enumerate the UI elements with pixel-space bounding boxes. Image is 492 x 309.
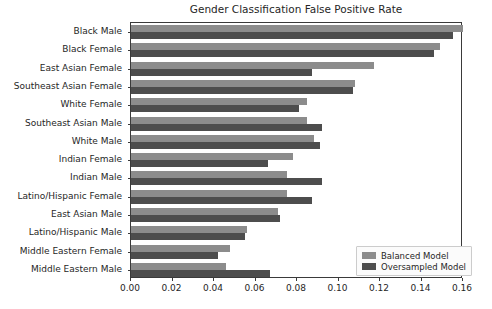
y-axis-tick-label: Middle Eastern Female <box>0 246 122 256</box>
chart-legend: Balanced ModelOversampled Model <box>356 246 472 276</box>
x-axis-tick-label: 0.12 <box>369 283 389 293</box>
legend-item: Balanced Model <box>362 250 466 261</box>
x-tick <box>338 278 339 281</box>
chart-figure: Gender Classification False Positive Rat… <box>0 0 492 309</box>
y-axis-tick-label: East Asian Female <box>0 63 122 73</box>
x-axis: 0.000.020.040.060.080.100.120.140.16 <box>130 278 462 306</box>
y-axis-tick-label: East Asian Male <box>0 209 122 219</box>
x-axis-tick-label: 0.06 <box>244 283 264 293</box>
legend-label: Oversampled Model <box>381 262 466 272</box>
chart-title: Gender Classification False Positive Rat… <box>130 3 462 15</box>
legend-swatch <box>362 252 376 259</box>
y-axis-tick-label: Indian Female <box>0 154 122 164</box>
legend-item: Oversampled Model <box>362 261 466 272</box>
y-axis-tick-label: Southeast Asian Female <box>0 81 122 91</box>
y-axis-tick-label: White Female <box>0 99 122 109</box>
y-axis-tick-label: Latino/Hispanic Female <box>0 191 122 201</box>
y-axis-tick-label: Black Male <box>0 26 122 36</box>
x-axis-tick-label: 0.02 <box>161 283 181 293</box>
x-axis-tick-label: 0.14 <box>410 283 430 293</box>
x-tick <box>130 278 131 281</box>
legend-swatch <box>362 263 376 270</box>
y-axis-labels: Black MaleBlack FemaleEast Asian FemaleS… <box>0 22 492 278</box>
y-axis-tick-label: Southeast Asian Male <box>0 118 122 128</box>
x-axis-tick-label: 0.10 <box>327 283 347 293</box>
y-axis-tick-label: Black Female <box>0 44 122 54</box>
x-tick <box>172 278 173 281</box>
y-axis-tick-label: White Male <box>0 136 122 146</box>
x-tick <box>213 278 214 281</box>
x-axis-tick-label: 0.08 <box>286 283 306 293</box>
x-tick <box>379 278 380 281</box>
x-axis-tick-label: 0.04 <box>203 283 223 293</box>
x-axis-tick-label: 0.16 <box>452 283 472 293</box>
y-axis-tick-label: Middle Eastern Male <box>0 264 122 274</box>
x-tick <box>421 278 422 281</box>
x-tick <box>296 278 297 281</box>
x-axis-tick-label: 0.00 <box>120 283 140 293</box>
y-axis-tick-label: Latino/Hispanic Male <box>0 227 122 237</box>
x-tick <box>462 278 463 281</box>
legend-label: Balanced Model <box>381 251 449 261</box>
x-tick <box>255 278 256 281</box>
y-axis-tick-label: Indian Male <box>0 172 122 182</box>
